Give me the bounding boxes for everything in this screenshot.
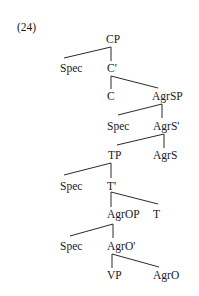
tree-edge-tp-spec3 [64, 163, 111, 175]
tree-node-agrop: AgrOP [107, 208, 140, 220]
tree-node-agrsp: AgrSP [152, 90, 183, 102]
tree-edge-cp-spec1 [64, 47, 111, 58]
tree-node-spec1: Spec [60, 62, 82, 74]
tree-node-cbar: C' [107, 62, 117, 74]
tree-edge-agrobar-agro [112, 254, 159, 267]
tree-edge-cbar-agrsp [111, 76, 158, 88]
tree-node-spec2: Spec [107, 120, 129, 132]
tree-edge-tbar-t [111, 192, 158, 204]
tree-node-agrs: AgrS [153, 149, 177, 161]
tree-edge-agrsbar-tp [117, 134, 164, 145]
tree-node-agro: AgrO [153, 269, 179, 281]
tree-node-cp: CP [106, 33, 120, 45]
tree-edges [0, 0, 199, 296]
tree-node-c: C [107, 90, 115, 102]
syntax-tree-diagram: (24) CPSpecC'CAgrSPSpecAgrS'TPAgrSSpecT'… [0, 0, 199, 296]
tree-edge-agrop-spec4 [70, 224, 113, 236]
tree-node-tbar: T' [107, 180, 116, 192]
tree-node-t: T [153, 208, 160, 220]
tree-node-tp: TP [108, 149, 121, 161]
tree-node-spec4: Spec [60, 240, 82, 252]
tree-edge-agrsp-spec2 [118, 104, 162, 115]
tree-node-spec3: Spec [60, 180, 82, 192]
example-number: (24) [17, 21, 36, 33]
tree-node-agrsbar: AgrS' [153, 120, 179, 132]
tree-node-agrobar: AgrO' [107, 240, 135, 252]
tree-node-vp: VP [107, 269, 122, 281]
